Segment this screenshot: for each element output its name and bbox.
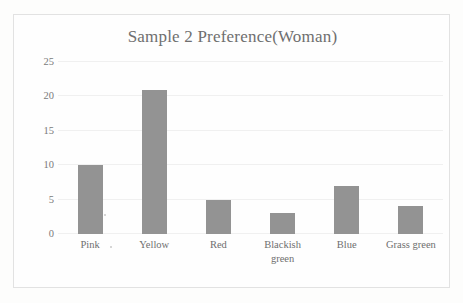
bar (142, 90, 167, 234)
x-tick-label-line: Red (210, 239, 227, 250)
gridline (58, 164, 443, 165)
y-tick-label: 25 (28, 57, 54, 67)
scan-speck (110, 246, 112, 248)
y-tick-label: 10 (28, 160, 54, 170)
x-tick-label: Grass green (373, 238, 449, 252)
gridline (58, 199, 443, 200)
x-axis-tick-labels: PinkYellowRedBlackishgreenBlueGrass gree… (58, 238, 443, 284)
bar (334, 186, 359, 234)
x-tick-label-line: Pink (80, 239, 99, 250)
bar (270, 213, 295, 234)
x-tick-label-line: Yellow (139, 239, 169, 250)
gridline (58, 61, 443, 62)
bar (398, 206, 423, 234)
gridline (58, 130, 443, 131)
y-tick-label: 20 (28, 91, 54, 101)
y-tick-label: 15 (28, 126, 54, 136)
x-tick-label-line: Grass green (386, 239, 436, 250)
x-tick-label-line: Blackish (264, 239, 301, 250)
chart-figure: Sample 2 Preference(Woman) 0510152025 Pi… (13, 14, 450, 288)
x-tick-label-line: green (245, 252, 321, 266)
gridline (58, 95, 443, 96)
scan-speck (104, 214, 106, 216)
y-tick-label: 5 (28, 195, 54, 205)
chart-title: Sample 2 Preference(Woman) (14, 27, 451, 47)
bar (78, 165, 103, 234)
bar (206, 200, 231, 234)
plot-area (58, 62, 443, 234)
y-tick-label: 0 (28, 229, 54, 239)
x-tick-label-line: Blue (337, 239, 357, 250)
y-axis-tick-labels: 0510152025 (24, 62, 54, 234)
gridline (58, 233, 443, 234)
